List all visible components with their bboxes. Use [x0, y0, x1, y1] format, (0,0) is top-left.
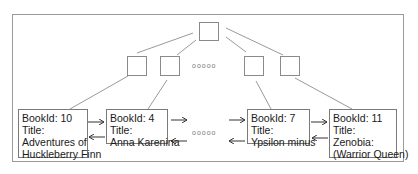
leaf-title: Adventures of: [22, 136, 87, 148]
ellipsis-leaves: ooooo: [192, 129, 216, 137]
leaf-bookid: BookId: 7: [251, 112, 309, 124]
leaf-title: Zenobia:: [333, 136, 396, 148]
leaf-title-label: Title:: [22, 124, 87, 136]
leaf-bookid: BookId: 4: [110, 112, 167, 124]
internal-node-3: [244, 56, 264, 76]
root-node: [199, 22, 219, 41]
leaf-title-label: Title:: [110, 124, 167, 136]
leaf-title-label: Title:: [333, 124, 396, 136]
internal-node-2: [160, 56, 180, 76]
leaf-title-cont: (Warrior Queen): [333, 148, 396, 160]
leaf-title: Anna Karenina: [110, 136, 167, 148]
leaf-bookid: BookId: 10: [22, 112, 87, 124]
leaf-node-2: BookId: 4 Title: Anna Karenina: [106, 109, 168, 144]
leaf-node-3: BookId: 7 Title: Ypsilon minus: [247, 109, 310, 144]
leaf-node-4: BookId: 11 Title: Zenobia: (Warrior Quee…: [329, 109, 397, 158]
ellipsis-internal: ooooo: [192, 62, 216, 70]
internal-node-1: [127, 56, 147, 76]
leaf-node-1: BookId: 10 Title: Adventures of Hucklebe…: [18, 109, 88, 158]
leaf-title: Ypsilon minus: [251, 136, 309, 148]
leaf-title-cont: Huckleberry Finn: [22, 148, 87, 160]
leaf-title-label: Title:: [251, 124, 309, 136]
internal-node-4: [280, 56, 300, 76]
leaf-bookid: BookId: 11: [333, 112, 396, 124]
